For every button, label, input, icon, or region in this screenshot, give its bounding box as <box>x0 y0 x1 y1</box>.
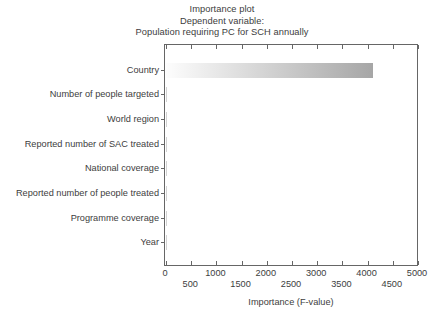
y-axis-category-label: Reported number of SAC treated <box>25 138 165 150</box>
bar <box>166 63 373 78</box>
x-axis-tick <box>166 45 167 49</box>
x-axis-tick <box>368 261 369 265</box>
bar <box>166 235 167 250</box>
bar <box>166 112 167 127</box>
bar <box>166 211 167 226</box>
x-axis-tick-label: 500 <box>183 279 198 290</box>
x-axis-tick <box>292 261 293 265</box>
x-axis-tick-label: 5000 <box>407 268 427 279</box>
chart-title-line-3: Population requiring PC for SCH annually <box>0 27 444 39</box>
y-axis-category-label: National coverage <box>85 162 165 174</box>
x-axis-tick-label: 1500 <box>230 279 250 290</box>
x-axis-tick <box>342 45 343 49</box>
x-axis-tick <box>267 45 268 49</box>
x-axis-tick <box>368 45 369 49</box>
x-axis-tick-label: 0 <box>162 268 167 279</box>
x-axis-tick <box>418 45 419 49</box>
x-axis-tick-label: 4000 <box>356 268 376 279</box>
x-axis-title: Importance (F-value) <box>164 297 418 307</box>
importance-plot-chart: Importance plot Dependent variable: Popu… <box>0 0 444 322</box>
x-axis-tick-label: 2500 <box>281 279 301 290</box>
chart-title-line-1: Importance plot <box>0 4 444 16</box>
plot-area: CountryNumber of people targetedWorld re… <box>164 44 418 266</box>
x-axis-tick <box>242 45 243 49</box>
x-axis-tick <box>418 261 419 265</box>
y-axis-category-label: Country <box>127 64 165 76</box>
x-axis-tick <box>317 261 318 265</box>
y-axis-category-label: Reported number of people treated <box>16 187 165 199</box>
chart-title-line-2: Dependent variable: <box>0 16 444 28</box>
x-axis-tick <box>191 45 192 49</box>
bar <box>166 137 167 152</box>
bar <box>166 87 167 102</box>
x-axis-tick <box>216 45 217 49</box>
x-axis-tick <box>342 261 343 265</box>
x-axis-tick-label: 1000 <box>205 268 225 279</box>
y-axis-category-label: Number of people targeted <box>50 88 165 100</box>
bar <box>166 186 167 201</box>
y-axis-category-label: Programme coverage <box>71 212 165 224</box>
y-axis-category-label: World region <box>107 113 165 125</box>
x-axis-tick <box>267 261 268 265</box>
x-axis-tick <box>166 261 167 265</box>
x-axis-tick <box>393 261 394 265</box>
x-axis-tick <box>242 261 243 265</box>
x-axis-tick-label: 2000 <box>256 268 276 279</box>
x-axis-tick-label: 3000 <box>306 268 326 279</box>
chart-title: Importance plot Dependent variable: Popu… <box>0 4 444 39</box>
x-axis-tick <box>216 261 217 265</box>
y-axis-category-label: Year <box>140 236 165 248</box>
x-axis-tick <box>191 261 192 265</box>
x-axis-tick <box>292 45 293 49</box>
x-axis-tick <box>393 45 394 49</box>
x-axis-tick-label: 4500 <box>382 279 402 290</box>
x-axis-tick-label: 3500 <box>331 279 351 290</box>
bar <box>166 161 167 176</box>
x-axis-tick <box>317 45 318 49</box>
